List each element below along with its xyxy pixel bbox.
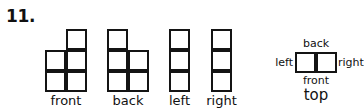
- grid-cell: [211, 29, 232, 50]
- grid-cell: [169, 71, 190, 92]
- grid-cell: [66, 71, 87, 92]
- top-view-box: [295, 52, 337, 73]
- view-label-left: left: [169, 93, 190, 108]
- top-view-label-back: back: [303, 37, 329, 50]
- grid-cell: [169, 50, 190, 71]
- grid-cell: [211, 71, 232, 92]
- grid-cell: [128, 71, 149, 92]
- grid-cell: [66, 29, 87, 50]
- view-label-front: front: [51, 93, 82, 108]
- grid-cell: [45, 71, 66, 92]
- grid-cell: [128, 50, 149, 71]
- grid-cell: [316, 52, 337, 73]
- grid-cell: [295, 52, 316, 73]
- grid-cell: [107, 71, 128, 92]
- cube-grid-left: left: [169, 29, 190, 92]
- grid-cell: [107, 29, 128, 50]
- top-view-label-left: left: [275, 56, 293, 69]
- top-view-diagram: back left right front top: [268, 36, 363, 108]
- view-figure-back: back: [107, 29, 149, 92]
- grid-cell: [45, 50, 66, 71]
- top-view-label-right: right: [338, 56, 364, 69]
- grid-cell: [66, 50, 87, 71]
- cube-grid-right: right: [211, 29, 232, 92]
- grid-cell: [169, 29, 190, 50]
- view-label-right: right: [206, 93, 237, 108]
- grid-cell: [211, 50, 232, 71]
- cube-grid-front: front: [45, 29, 87, 92]
- view-label-back: back: [113, 93, 144, 108]
- view-figure-left: left: [169, 29, 190, 92]
- grid-cell: [107, 50, 128, 71]
- view-figure-front: front: [45, 29, 87, 92]
- top-view-label-top: top: [304, 87, 329, 104]
- view-figure-right: right: [211, 29, 232, 92]
- cube-grid-back: back: [107, 29, 149, 92]
- problem-number: 11.: [6, 6, 35, 26]
